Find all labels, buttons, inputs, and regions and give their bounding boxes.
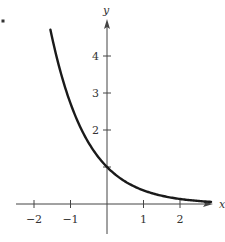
x-tick-label: −1 — [62, 213, 78, 226]
y-tick-label: 2 — [92, 124, 99, 137]
exponential-decay-curve — [50, 30, 211, 202]
x-tick-label: 2 — [177, 213, 184, 226]
axes — [16, 19, 213, 234]
tick-labels: −2−112234 — [26, 50, 184, 226]
y-tick-label: 3 — [92, 87, 99, 100]
x-tick-label: −2 — [26, 213, 42, 226]
x-axis-label: x — [219, 198, 225, 211]
y-tick-label: 4 — [92, 50, 99, 63]
function-graph: −2−112234 x y — [0, 0, 225, 242]
y-axis-label: y — [102, 4, 110, 17]
x-tick-label: 1 — [140, 213, 147, 226]
list-bullet-marker — [2, 20, 5, 23]
